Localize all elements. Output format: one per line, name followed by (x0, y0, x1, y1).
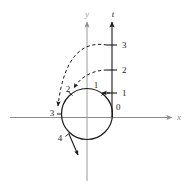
circle-point-label-0: 0 (116, 102, 121, 112)
figure-canvas: x y t 3 2 1 (0, 0, 191, 189)
connector-t2 (74, 70, 107, 88)
circle-point-label-1: 1 (94, 80, 99, 90)
t-tick-label-2: 2 (122, 65, 127, 75)
connector-t3-path (58, 44, 107, 106)
t-axis-label: t (112, 9, 115, 19)
circle-point-label-2: 2 (66, 84, 71, 94)
connector-t2-path (74, 70, 107, 88)
y-axis-group: y (84, 9, 89, 181)
x-axis-label: x (176, 112, 181, 122)
circle-point-label-4: 4 (58, 133, 63, 143)
connector-t3 (58, 44, 107, 106)
t-tick-label-3: 3 (122, 40, 127, 50)
t-tick-label-1: 1 (122, 88, 127, 98)
t-axis-group: t 3 2 1 (107, 9, 127, 117)
x-axis-group: x (10, 112, 181, 122)
circle-point-label-3: 3 (50, 108, 55, 118)
y-axis-label: y (84, 9, 89, 19)
phase-circle-diagram: x y t 3 2 1 (0, 0, 191, 189)
